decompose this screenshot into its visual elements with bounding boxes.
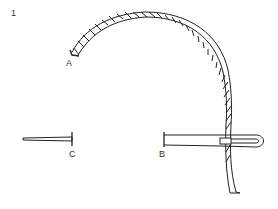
label-c: C [69, 150, 76, 159]
rope-and-needles-drawing [0, 0, 278, 209]
needle-b [164, 132, 264, 147]
label-b: B [159, 150, 165, 159]
rope-twist-hatching [74, 12, 231, 162]
needle-c [23, 132, 72, 146]
label-a: A [66, 59, 72, 68]
rope [72, 12, 240, 193]
